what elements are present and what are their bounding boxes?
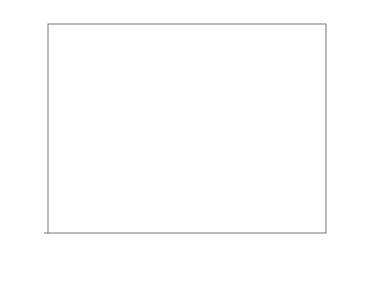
plot-frame [48,24,326,233]
bar-chart [0,0,372,306]
